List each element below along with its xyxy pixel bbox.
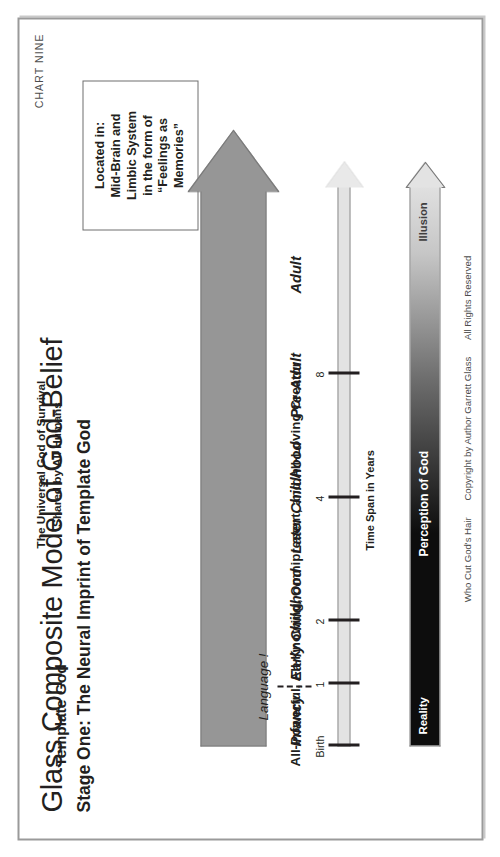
page-subtitle: Stage One: The Neural Imprint of Templat…: [73, 419, 94, 812]
footer-rights: All Rights Reserved: [461, 255, 472, 339]
timeline-tick-label: 1: [313, 681, 325, 687]
timeline-tick: [328, 743, 359, 746]
perception-reality-label: Reality: [416, 697, 428, 734]
located-in-callout: Located in: Mid-Brain and Limbic System …: [82, 80, 198, 230]
located-in-line: Limbic System: [124, 91, 140, 219]
footer-book-title: Who Cut God's Hair: [461, 517, 472, 602]
stage-label-pre-adult: Pre-Adult: [287, 352, 303, 418]
language-marker-dash: [277, 685, 311, 687]
chart-number-label: CHART NINE: [32, 33, 44, 108]
timeline-tick: [328, 618, 359, 621]
located-in-line: in the form of: [140, 91, 156, 219]
footer: Who Cut God's Hair Copyright by Author G…: [461, 19, 472, 838]
stage-label-later-childhood: Later Childhood: [287, 441, 303, 553]
stage-label-infancy: Infancy: [287, 695, 303, 746]
timeline-arrow-head: [325, 161, 363, 187]
located-in-line: Located in:: [92, 91, 108, 219]
perception-center-label: Perception of God: [416, 450, 430, 556]
footer-copyright: Copyright by Author Garrett Glass: [461, 356, 472, 500]
stage-label-adult: Adult: [287, 256, 303, 293]
template-god-sublabel-line1: The Universal God of Survival: [33, 380, 49, 548]
timeline-tick-label: Birth: [313, 735, 325, 757]
timeline-tick: [328, 371, 359, 374]
chart-frame: Glass Composite Model of God-Belief Stag…: [17, 17, 483, 840]
perception-arrow-outline: [405, 161, 445, 188]
timeline-tick: [328, 495, 359, 498]
template-god-arrow-outline: [187, 129, 279, 192]
template-god-sublabel: The Universal God of Survival Shared by …: [33, 380, 65, 548]
perception-of-god-arrow: Reality Perception of God Illusion: [405, 129, 445, 746]
timeline-tick-label: 8: [313, 371, 325, 377]
stage-label-early-childhood: Early Childhood: [287, 568, 303, 680]
located-in-line: Mid-Brain and: [108, 91, 124, 219]
perception-illusion-label: Illusion: [416, 202, 428, 241]
timeline-tick-label: 4: [313, 495, 325, 501]
chart-page: Glass Composite Model of God-Belief Stag…: [0, 0, 500, 857]
timeline-bar: [337, 186, 350, 746]
language-marker-label: Language !: [255, 653, 270, 720]
timeline: Birth 1 2 4 8 Time Span in Years: [319, 129, 359, 746]
timeline-tick: [328, 681, 359, 684]
template-god-sublabel-line2: Shared by All Humans: [49, 380, 65, 548]
timeline-tick-label: 2: [313, 618, 325, 624]
located-in-line: “Feelings as: [155, 91, 171, 219]
timeline-caption: Time Span in Years: [363, 450, 375, 550]
template-god-label: Template God: [51, 664, 69, 766]
located-in-line: Memories”: [171, 91, 187, 219]
